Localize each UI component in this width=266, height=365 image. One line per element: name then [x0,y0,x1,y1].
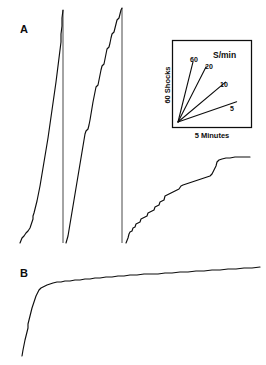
inset-frame [173,41,252,128]
slope-label-10: 10 [220,81,228,88]
panel-b-group: B [20,267,260,356]
slope-reference-line-60 [178,62,193,122]
trace-panel-b-segment-1 [22,267,260,356]
trace-panel-a-segment-3 [126,157,250,243]
slope-label-20: 20 [205,63,213,70]
trace-panel-a-segment-2 [66,8,122,243]
inset-x-axis-label: 5 Minutes [195,131,230,140]
slope-label-5: 5 [230,105,234,112]
slope-label-60: 60 [190,56,198,63]
inset-slope-lines [178,62,237,122]
panel-a-group: A [20,8,250,243]
cumulative-record-figure: A 60 20 10 5 S/min 60 Shocks 5 Minutes B [0,0,266,365]
inset-legend-group: 60 20 10 5 S/min 60 Shocks 5 Minutes [163,41,252,141]
slope-reference-line-10 [178,82,226,122]
inset-y-axis-label: 60 Shocks [163,66,172,103]
panel-b-label: B [20,267,28,279]
panel-a-label: A [20,23,28,35]
trace-panel-a-segment-1 [20,10,63,243]
figure-container: A 60 20 10 5 S/min 60 Shocks 5 Minutes B [0,0,266,365]
inset-rate-header: S/min [213,50,236,60]
